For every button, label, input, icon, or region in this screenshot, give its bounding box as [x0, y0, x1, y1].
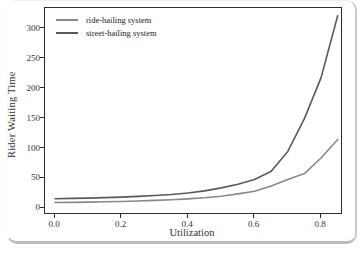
x-tick-mark: [320, 214, 321, 218]
plot-area: ride-hailing system street-hailing syste…: [44, 7, 342, 214]
y-tick-label: 0: [0, 201, 40, 213]
legend-item-ride-hailing: ride-hailing system: [56, 13, 157, 26]
legend-line-swatch-street-hailing: [56, 32, 78, 34]
y-tick-label: 100: [0, 142, 40, 154]
legend: ride-hailing system street-hailing syste…: [56, 13, 157, 39]
y-tick-label: 150: [0, 112, 40, 124]
legend-label-street-hailing: street-hailing system: [86, 28, 157, 38]
x-tick-label: 0.8: [305, 218, 335, 230]
legend-label-ride-hailing: ride-hailing system: [86, 15, 151, 25]
y-tick-label: 300: [0, 22, 40, 34]
legend-item-street-hailing: street-hailing system: [56, 26, 157, 39]
y-tick-label: 200: [0, 82, 40, 94]
x-tick-label: 0.0: [39, 218, 69, 230]
x-tick-mark: [253, 214, 254, 218]
x-tick-label: 0.2: [106, 218, 136, 230]
x-tick-mark: [187, 214, 188, 218]
y-tick-label: 50: [0, 171, 40, 183]
figure: Rider Waiting Time Utilization 050100150…: [0, 0, 363, 261]
legend-line-swatch-ride-hailing: [56, 19, 78, 21]
x-tick-label: 0.6: [239, 218, 269, 230]
x-tick-label: 0.4: [172, 218, 202, 230]
curve-ride-hailing: [55, 140, 338, 203]
x-tick-mark: [54, 214, 55, 218]
x-tick-mark: [120, 214, 121, 218]
curve-street-hailing: [55, 16, 338, 199]
y-tick-label: 250: [0, 52, 40, 64]
